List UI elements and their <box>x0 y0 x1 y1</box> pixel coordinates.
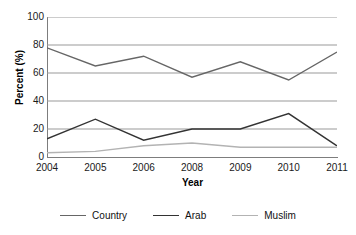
y-tick-label: 20 <box>4 124 44 134</box>
chart-legend: CountryArabMuslim <box>0 205 356 225</box>
y-tick-label: 0 <box>4 152 44 162</box>
series-lines <box>47 48 337 153</box>
chart-title <box>0 0 356 5</box>
x-tick-label: 2009 <box>218 162 262 173</box>
legend-item-country[interactable]: Country <box>60 210 127 221</box>
gridlines <box>47 17 337 129</box>
x-tick-label: 2006 <box>122 162 166 173</box>
legend-label: Muslim <box>264 210 296 221</box>
plot-svg <box>47 17 337 157</box>
plot-area <box>47 17 337 157</box>
series-line-country <box>47 48 337 80</box>
legend-swatch-line-icon <box>232 215 258 216</box>
y-axis-title: Percent (%) <box>14 30 25 126</box>
legend-label: Country <box>92 210 127 221</box>
x-tick-label: 2011 <box>315 162 356 173</box>
x-axis-line <box>47 157 338 158</box>
legend-label: Arab <box>185 210 206 221</box>
x-tick-label: 2010 <box>267 162 311 173</box>
legend-item-arab[interactable]: Arab <box>153 210 206 221</box>
x-tick-label: 2004 <box>25 162 69 173</box>
x-tick-label: 2005 <box>73 162 117 173</box>
legend-swatch-line-icon <box>153 215 179 216</box>
x-axis-title: Year <box>47 177 338 188</box>
series-line-arab <box>47 114 337 146</box>
x-tick-label: 2008 <box>170 162 214 173</box>
chart-figure: 100806040200 200420052006200820092010201… <box>0 0 356 235</box>
series-line-muslim <box>47 143 337 153</box>
y-tick-label: 100 <box>4 12 44 22</box>
legend-swatch-line-icon <box>60 215 86 216</box>
legend-item-muslim[interactable]: Muslim <box>232 210 296 221</box>
